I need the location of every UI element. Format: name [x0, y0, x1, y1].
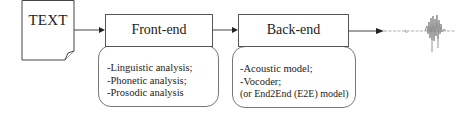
backend-details-box: -Acoustic model; -Vocoder; (or End2End (… [232, 46, 356, 108]
arrow-backend-to-output [348, 28, 455, 34]
frontend-item: -Prosodic analysis [107, 87, 218, 100]
backend-stage-box: Back-end [238, 14, 349, 47]
frontend-item: -Linguistic analysis; [107, 62, 218, 75]
frontend-item: -Phonetic analysis; [107, 75, 218, 88]
frontend-stage-box: Front-end [105, 14, 213, 47]
backend-item: (or End2End (E2E) model) [240, 88, 355, 101]
document-icon [22, 1, 74, 61]
arrow-frontend-to-backend [212, 27, 238, 33]
backend-item: -Vocoder; [240, 76, 355, 89]
input-text-label: TEXT [22, 12, 74, 29]
backend-item: -Acoustic model; [240, 63, 355, 76]
frontend-details-box: -Linguistic analysis; -Phonetic analysis… [98, 45, 219, 107]
speech-waveform-icon [405, 15, 446, 52]
arrow-text-to-frontend [74, 27, 105, 33]
